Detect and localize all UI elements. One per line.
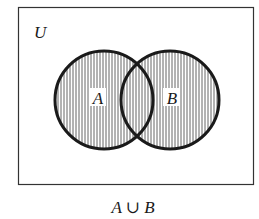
universe-label: U bbox=[34, 23, 48, 42]
set-a-label: A bbox=[92, 89, 104, 108]
venn-diagram: U A B A ∪ B bbox=[0, 0, 259, 219]
set-b-label: B bbox=[167, 89, 178, 108]
diagram-caption: A ∪ B bbox=[110, 198, 155, 217]
